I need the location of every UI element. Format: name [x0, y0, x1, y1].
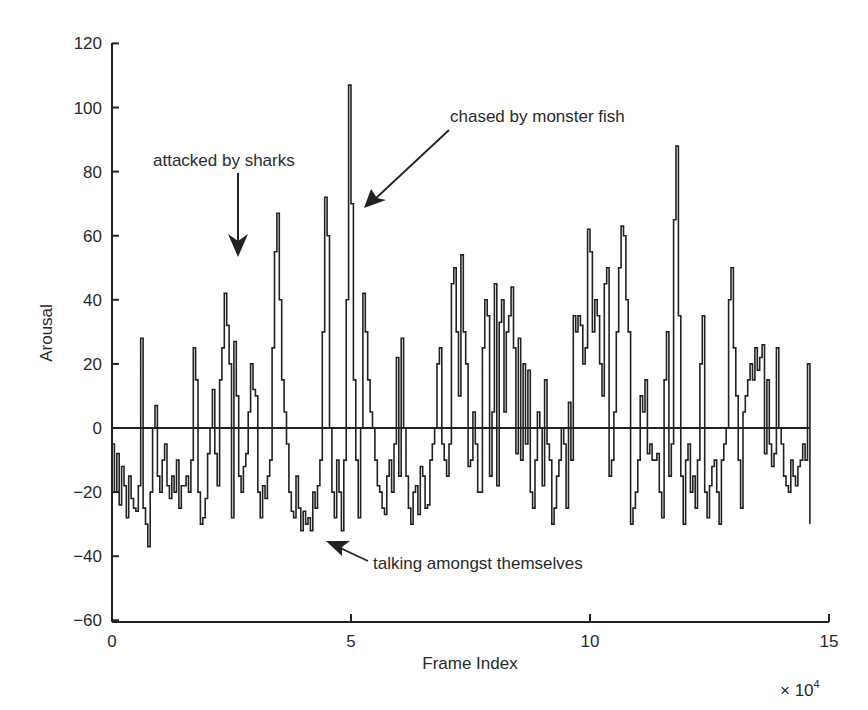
x-multiplier-label: × 104 — [780, 678, 820, 700]
annotation-monster-fish: chased by monster fish — [364, 107, 625, 208]
x-tick-label: 10 — [581, 632, 600, 651]
x-tick-label: 15 — [820, 632, 839, 651]
x-multiplier-base: × 10 — [780, 681, 814, 700]
y-tick-label: 60 — [83, 227, 102, 246]
y-tick-label: −60 — [73, 611, 102, 630]
x-tick-label: 0 — [107, 632, 116, 651]
annotation-talking-text: talking amongst themselves — [373, 554, 583, 573]
x-ticks: 051015 — [107, 614, 838, 651]
annotation-sharks-text: attacked by sharks — [153, 151, 295, 170]
y-tick-label: 0 — [93, 419, 102, 438]
y-tick-label: −20 — [73, 483, 102, 502]
annotation-talking: talking amongst themselves — [326, 541, 583, 573]
arousal-chart: −60−40−20020406080100120 051015 Frame In… — [0, 0, 868, 710]
y-tick-label: 20 — [83, 355, 102, 374]
y-tick-label: 100 — [74, 99, 102, 118]
annotation-monster-text: chased by monster fish — [450, 107, 625, 126]
y-tick-label: 40 — [83, 291, 102, 310]
x-tick-label: 5 — [346, 632, 355, 651]
arrow-head-talking — [326, 541, 350, 556]
y-tick-label: 120 — [74, 34, 102, 53]
y-axis-label: Arousal — [37, 304, 56, 362]
x-axis-label: Frame Index — [422, 654, 518, 673]
arrow-diagonal-icon — [374, 130, 449, 200]
annotation-sharks: attacked by sharks — [153, 151, 295, 257]
y-tick-label: −40 — [73, 547, 102, 566]
x-multiplier-exponent: 4 — [814, 678, 820, 690]
y-tick-label: 80 — [83, 163, 102, 182]
